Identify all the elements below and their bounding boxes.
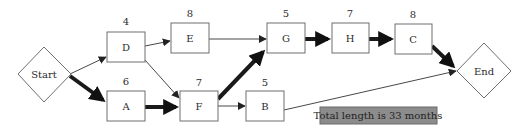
node-h: 7 H: [332, 8, 369, 53]
node-c-label: C: [409, 34, 417, 45]
edge-c-end: [432, 46, 453, 66]
node-e: 8 E: [171, 8, 209, 53]
node-a-label: A: [121, 101, 130, 112]
end-label: End: [474, 66, 495, 77]
edge-start-d: [70, 57, 106, 74]
edge-b-end: [284, 71, 456, 110]
node-b: 5 B: [246, 77, 284, 121]
total-length-text: Total length is 33 months: [314, 110, 443, 121]
node-g-label: G: [282, 33, 290, 44]
node-b-duration: 5: [262, 77, 268, 88]
start-label: Start: [31, 69, 57, 80]
node-h-label: H: [346, 33, 355, 44]
node-f-duration: 7: [196, 77, 202, 88]
node-e-label: E: [186, 33, 193, 44]
network-diagram: Start End 4 D 8 E 6 A 7 F 5 G 5 B: [0, 0, 527, 131]
node-c-duration: 8: [410, 9, 416, 20]
node-f: 7 F: [180, 77, 218, 121]
node-g: 5 G: [267, 8, 305, 53]
end-node: End: [457, 43, 511, 98]
node-d: 4 D: [107, 16, 145, 62]
edge-start-a: [70, 76, 103, 100]
edge-d-f: [145, 60, 179, 98]
node-h-duration: 7: [347, 8, 353, 19]
node-d-duration: 4: [123, 16, 129, 27]
node-d-label: D: [122, 42, 130, 53]
edge-d-e: [145, 41, 170, 46]
node-b-label: B: [261, 101, 268, 112]
start-node: Start: [18, 47, 71, 102]
node-a: 6 A: [107, 76, 145, 121]
node-c: 8 C: [395, 9, 432, 54]
total-length-callout: Total length is 33 months: [314, 107, 443, 124]
node-f-label: F: [196, 101, 203, 112]
node-e-duration: 8: [187, 8, 193, 19]
node-g-duration: 5: [283, 8, 289, 19]
node-a-duration: 6: [123, 76, 129, 87]
